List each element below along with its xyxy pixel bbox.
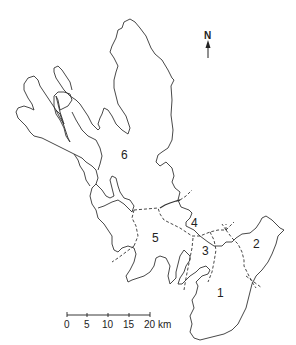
region-boundaries [112,190,262,290]
region-label-1: 1 [217,286,224,300]
map-canvas [0,0,296,345]
region-label-4: 4 [191,216,198,230]
scale-tick-20: 20 [144,319,155,330]
scale-tick-10: 10 [102,319,113,330]
coastline-west-lobes [72,112,134,212]
scale-tick-5: 5 [84,319,90,330]
north-arrow-icon [206,40,211,58]
coastline [16,19,284,340]
north-label: N [204,30,211,41]
scale-tick-15: 15 [123,319,134,330]
region-label-6: 6 [121,148,128,162]
region-label-3: 3 [202,244,209,258]
scale-tick-0: 0 [64,319,70,330]
region-label-2: 2 [253,237,260,251]
region-label-5: 5 [152,231,159,245]
scale-unit: km [158,319,171,330]
causeway [160,200,180,208]
scale-bar [67,312,150,317]
